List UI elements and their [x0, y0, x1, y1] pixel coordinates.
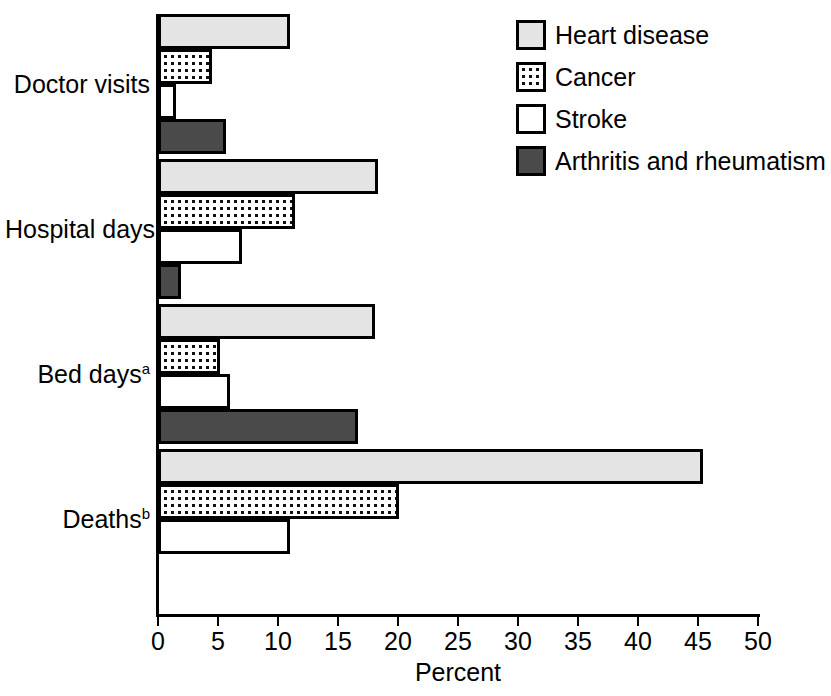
x-axis-tick-label: 30: [504, 626, 532, 656]
x-axis-tick-label: 25: [444, 626, 472, 656]
category-label-text: Hospital days: [5, 215, 155, 243]
legend-label: Cancer: [555, 63, 636, 91]
category-label-text: Bed days: [37, 360, 141, 388]
bar: [158, 484, 399, 519]
x-axis-tick: [637, 617, 639, 626]
category-label: Doctor visits: [5, 70, 150, 98]
x-axis-tick: [757, 617, 759, 626]
legend-item: Cancer: [516, 58, 831, 95]
legend: Heart diseaseCancerStrokeArthritis and r…: [516, 16, 831, 184]
x-axis-tick-label: 0: [151, 626, 165, 656]
legend-item: Arthritis and rheumatism: [516, 142, 831, 179]
bar: [158, 519, 290, 554]
bar: [158, 304, 375, 339]
x-axis-tick-label: 15: [324, 626, 352, 656]
category-footnote-mark: a: [142, 360, 150, 377]
category-label: Bed daysa: [5, 360, 150, 388]
category-label: Hospital days: [5, 215, 150, 243]
bar: [158, 194, 295, 229]
category-footnote-mark: b: [142, 505, 150, 522]
bar: [158, 159, 378, 194]
page-footnote-partial: [10, 685, 13, 696]
legend-swatch: [516, 62, 546, 92]
bar: [158, 49, 212, 84]
legend-label: Arthritis and rheumatism: [555, 147, 826, 175]
bar: [158, 84, 176, 119]
x-axis-tick-label: 20: [384, 626, 412, 656]
x-axis-tick-label: 50: [744, 626, 772, 656]
category-label: Deathsb: [5, 505, 150, 533]
legend-item: Heart disease: [516, 16, 831, 53]
bar: [158, 409, 358, 444]
x-axis-tick: [457, 617, 459, 626]
x-axis-tick-label: 35: [564, 626, 592, 656]
legend-swatch: [516, 20, 546, 50]
x-axis-tick: [217, 617, 219, 626]
x-axis-tick-label: 40: [624, 626, 652, 656]
bar: [158, 229, 242, 264]
legend-swatch: [516, 104, 546, 134]
y-axis-category-labels: Doctor visitsHospital daysBed daysaDeath…: [0, 0, 150, 620]
x-axis-tick: [577, 617, 579, 626]
legend-label: Stroke: [555, 105, 627, 133]
x-axis-tick: [157, 617, 159, 626]
legend-label: Heart disease: [555, 21, 709, 49]
bar: [158, 14, 290, 49]
x-axis-tick-label: 5: [211, 626, 225, 656]
bar-chart: 05101520253035404550 Percent Doctor visi…: [0, 0, 831, 696]
bar: [158, 339, 220, 374]
x-axis-tick: [397, 617, 399, 626]
x-axis-tick: [337, 617, 339, 626]
category-label-text: Doctor visits: [14, 70, 150, 98]
x-axis-title: Percent: [158, 658, 758, 686]
category-label-text: Deaths: [62, 505, 141, 533]
x-axis-tick: [277, 617, 279, 626]
bar: [158, 119, 226, 154]
x-axis-tick: [517, 617, 519, 626]
bar: [158, 449, 703, 484]
legend-swatch: [516, 146, 546, 176]
bar: [158, 374, 230, 409]
x-axis-tick: [697, 617, 699, 626]
x-axis-tick-label: 10: [264, 626, 292, 656]
legend-item: Stroke: [516, 100, 831, 137]
bar: [158, 264, 181, 299]
x-axis-tick-label: 45: [684, 626, 712, 656]
